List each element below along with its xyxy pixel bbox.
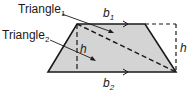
triangle1-label: Triangle1 [18, 2, 66, 18]
inner-h-label: h [80, 42, 87, 56]
triangle2-label: Triangle2 [2, 28, 50, 44]
outer-h-label: h [180, 41, 187, 55]
b2-label: b2 [103, 76, 115, 92]
trapezoid-diagram: Triangle1 Triangle2 b1 b2 h h [0, 0, 187, 92]
b1-label: b1 [103, 6, 114, 22]
